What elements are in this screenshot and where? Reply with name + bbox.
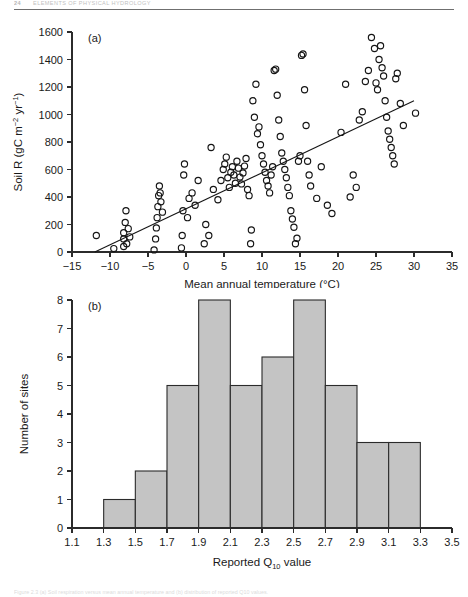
scatter-point [111, 245, 117, 251]
scatter-point [286, 193, 292, 199]
scatter-point [274, 92, 280, 98]
scatter-point [282, 166, 288, 172]
scatter-point [288, 208, 294, 214]
scatter-point [390, 153, 396, 159]
scatter-point [154, 215, 160, 221]
panel-a-y-tick-label: 1600 [39, 26, 63, 38]
scatter-point [179, 232, 185, 238]
scatter-point [387, 136, 393, 142]
scatter-point [178, 245, 184, 251]
page-folio: 24 [14, 0, 21, 6]
scatter-point [93, 232, 99, 238]
scatter-point [350, 172, 356, 178]
panel-a-y-axis-title: Soil R (gC m−2 yr−1) [11, 92, 24, 191]
scatter-point [289, 216, 295, 222]
scatter-point [314, 195, 320, 201]
scatter-point [244, 186, 250, 192]
scatter-point [184, 215, 190, 221]
scatter-point [343, 81, 349, 87]
scatter-point [259, 153, 265, 159]
panel-a-label: (a) [88, 32, 101, 44]
scatter-point [208, 144, 214, 150]
panel-a-y-tick-label: 0 [57, 246, 63, 258]
scatter-point [253, 81, 259, 87]
scatter-point [122, 219, 128, 225]
scatter-point [243, 155, 249, 161]
panel-a-y-tick-label: 1400 [39, 54, 63, 66]
panel-b-x-tick-label: 2.1 [223, 536, 238, 548]
histogram-bar [167, 386, 199, 529]
scatter-point [234, 158, 240, 164]
scatter-point [206, 232, 212, 238]
histogram-bar [262, 357, 294, 528]
panel-b-x-tick-label: 2.9 [349, 536, 364, 548]
running-head-title: ELEMENTS OF PHYSICAL HYDROLOGY [33, 0, 151, 6]
scatter-point [267, 190, 273, 196]
panel-a-point-group [93, 34, 418, 253]
panel-b-y-tick-label: 0 [57, 522, 63, 534]
figure-page: 24ELEMENTS OF PHYSICAL HYDROLOGY 0200400… [0, 0, 468, 597]
panel-b-y-tick-label: 2 [57, 465, 63, 477]
histogram-bar [135, 471, 167, 528]
scatter-point [189, 190, 195, 196]
scatter-point [181, 172, 187, 178]
scatter-point [412, 110, 418, 116]
scatter-point [365, 67, 371, 73]
scatter-point [279, 150, 285, 156]
panel-a-y-axis-title-text: Soil R (gC m−2 yr−1) [11, 92, 24, 191]
panel-a-x-tick-label: 10 [256, 260, 268, 272]
scatter-point [347, 194, 353, 200]
scatter-point [356, 117, 362, 123]
panel-a-x-tick-label: −5 [142, 260, 155, 272]
scatter-point [254, 131, 260, 137]
scatter-point [301, 87, 307, 93]
panel-b-y-tick-label: 3 [57, 437, 63, 449]
panel-b-x-tick-label: 3.5 [444, 536, 459, 548]
scatter-point [374, 87, 380, 93]
scatter-point [376, 56, 382, 62]
panel-b-y-axis-title-text: Number of sites [18, 373, 30, 454]
scatter-point [329, 210, 335, 216]
panel-b-x-tick-label: 1.5 [128, 536, 143, 548]
scatter-point [338, 129, 344, 135]
scatter-point [359, 109, 365, 115]
scatter-point [400, 122, 406, 128]
scatter-point [181, 161, 187, 167]
scatter-point [251, 114, 257, 120]
scatter-point [305, 158, 311, 164]
scatter-point [257, 142, 263, 148]
scatter-point [291, 224, 297, 230]
panel-a-x-tick-label: 35 [446, 260, 458, 272]
panel-a-scatter: 02004006008001000120014001600−15−10−5051… [0, 14, 468, 288]
panel-b-y-tick-label: 5 [57, 380, 63, 392]
scatter-point [353, 184, 359, 190]
scatter-point [250, 98, 256, 104]
panel-b-x-tick-label: 1.1 [64, 536, 79, 548]
panel-b-y-axis-title: Number of sites [18, 373, 30, 454]
scatter-point [123, 208, 129, 214]
histogram-bar [357, 443, 389, 529]
scatter-point [153, 225, 159, 231]
scatter-point [362, 78, 368, 84]
scatter-point [388, 144, 394, 150]
panel-b-y-tick-label: 1 [57, 494, 63, 506]
scatter-point [268, 172, 274, 178]
header-rule [14, 9, 454, 10]
scatter-point [248, 227, 254, 233]
panel-b-x-axis-title: Reported Q10 value [213, 556, 311, 571]
scatter-point [300, 51, 306, 57]
panel-b-label: (b) [88, 300, 101, 312]
panel-a-x-tick-label: 30 [408, 260, 420, 272]
panel-a-y-tick-label: 1200 [39, 81, 63, 93]
scatter-point [306, 172, 312, 178]
scatter-point [377, 43, 383, 49]
scatter-point [384, 114, 390, 120]
scatter-point [385, 128, 391, 134]
scatter-point [318, 164, 324, 170]
scatter-point [308, 183, 314, 189]
histogram-bar [294, 300, 326, 528]
scatter-point [215, 197, 221, 203]
scatter-point [373, 80, 379, 86]
panel-a-y-tick-label: 200 [45, 219, 63, 231]
panel-b-x-tick-label: 3.3 [413, 536, 428, 548]
